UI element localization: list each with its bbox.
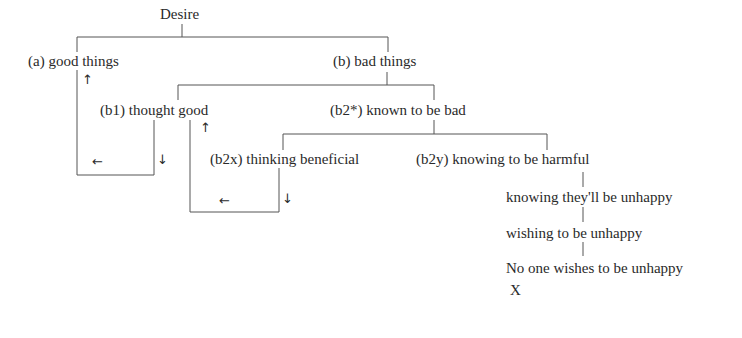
node-no-one-wishes: No one wishes to be unhappy bbox=[506, 259, 683, 277]
node-knowing-unhappy: knowing they'll be unhappy bbox=[506, 188, 672, 206]
arrow-left-icon: ← bbox=[92, 155, 103, 168]
root-node-desire: Desire bbox=[160, 5, 199, 23]
desire-tree-diagram: Desire (a) good things (b) bad things (b… bbox=[0, 0, 742, 338]
connector-lines bbox=[0, 0, 742, 338]
arrow-left-icon: ← bbox=[219, 194, 230, 207]
node-b-bad-things: (b) bad things bbox=[333, 52, 416, 70]
arrow-down-icon: ↓ bbox=[157, 153, 168, 166]
arrow-up-icon: ↑ bbox=[82, 73, 93, 86]
node-b2y-knowing-harmful: (b2y) knowing to be harmful bbox=[416, 150, 589, 168]
node-a-good-things: (a) good things bbox=[28, 52, 119, 70]
node-b2-known-bad: (b2*) known to be bad bbox=[330, 101, 466, 119]
arrow-up-icon: ↑ bbox=[200, 121, 211, 134]
arrow-down-icon: ↓ bbox=[282, 192, 293, 205]
node-b1-thought-good: (b1) thought good bbox=[100, 101, 208, 119]
negation-mark: X bbox=[510, 281, 521, 299]
node-b2x-thinking-beneficial: (b2x) thinking beneficial bbox=[210, 150, 359, 168]
node-wishing-unhappy: wishing to be unhappy bbox=[506, 224, 642, 242]
